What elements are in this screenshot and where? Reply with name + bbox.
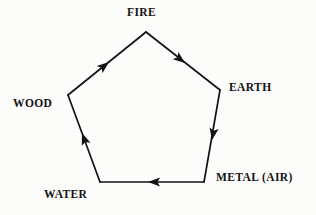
five-elements-cycle-diagram: FIRE EARTH METAL (AIR) WATER WOOD (0, 0, 316, 215)
arrowhead-water-to-wood (78, 131, 91, 145)
node-label-water: WATER (44, 188, 87, 201)
node-label-earth: EARTH (229, 81, 272, 94)
node-label-fire: FIRE (127, 6, 156, 19)
node-label-metal: METAL (AIR) (216, 171, 293, 184)
node-label-wood: WOOD (13, 97, 52, 110)
